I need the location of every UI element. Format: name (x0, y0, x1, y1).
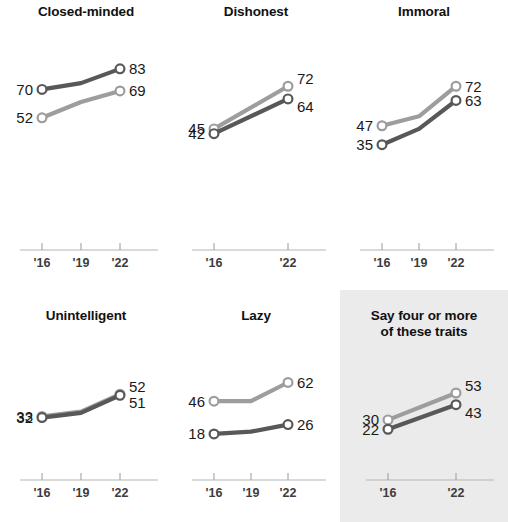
x-tick-label: '22 (280, 256, 297, 270)
x-tick-label: '19 (73, 486, 90, 500)
series-line-dark (42, 69, 120, 90)
x-tick-label: '22 (112, 256, 129, 270)
start-value-label: 42 (188, 125, 205, 142)
data-point-marker (116, 64, 125, 73)
panel-plot: '16'19'2247723563 (340, 0, 508, 288)
series-line-light (382, 86, 456, 126)
small-multiples-chart-grid: Closed-minded'16'19'2270835269Dishonest'… (0, 0, 508, 522)
data-point-marker (38, 413, 47, 422)
series-line-dark (42, 395, 120, 417)
end-value-label: 53 (465, 377, 482, 394)
start-value-label: 22 (362, 421, 379, 438)
data-point-marker (38, 113, 47, 122)
start-value-label: 52 (16, 109, 33, 126)
end-value-label: 64 (297, 98, 314, 115)
chart-panel-1: Closed-minded'16'19'2270835269 (0, 0, 172, 288)
data-point-marker (284, 82, 293, 91)
x-tick-label: '19 (411, 256, 428, 270)
data-point-marker (210, 430, 219, 439)
start-value-label: 18 (188, 425, 205, 442)
x-tick-label: '19 (73, 256, 90, 270)
data-point-marker (384, 425, 393, 434)
data-point-marker (210, 397, 219, 406)
x-tick-label: '16 (206, 256, 223, 270)
panel-plot: '16'2230532243 (340, 290, 508, 522)
end-value-label: 62 (297, 374, 314, 391)
end-value-label: 83 (129, 60, 146, 77)
panel-plot: '16'19'2233523251 (0, 290, 172, 522)
x-tick-label: '16 (34, 486, 51, 500)
end-value-label: 72 (297, 70, 314, 87)
data-point-marker (452, 400, 461, 409)
series-line-light (42, 91, 120, 118)
end-value-label: 26 (297, 416, 314, 433)
panel-plot: '16'19'2246621826 (172, 290, 340, 522)
series-line-light (214, 86, 288, 129)
data-point-marker (284, 378, 293, 387)
data-point-marker (378, 121, 387, 130)
data-point-marker (452, 82, 461, 91)
start-value-label: 46 (188, 393, 205, 410)
x-tick-label: '22 (448, 486, 465, 500)
end-value-label: 43 (465, 404, 482, 421)
end-value-label: 69 (129, 82, 146, 99)
data-point-marker (378, 140, 387, 149)
data-point-marker (452, 389, 461, 398)
data-point-marker (210, 129, 219, 138)
start-value-label: 32 (16, 409, 33, 426)
data-point-marker (38, 85, 47, 94)
x-tick-label: '22 (280, 486, 297, 500)
chart-panel-2: Dishonest'16'2245724264 (172, 0, 340, 288)
start-value-label: 35 (356, 136, 373, 153)
data-point-marker (284, 94, 293, 103)
x-tick-label: '16 (374, 256, 391, 270)
x-tick-label: '16 (206, 486, 223, 500)
panel-plot: '16'2245724264 (172, 0, 340, 288)
end-value-label: 63 (465, 92, 482, 109)
data-point-marker (384, 416, 393, 425)
data-point-marker (116, 391, 125, 400)
series-line-dark (214, 425, 288, 434)
data-point-marker (284, 420, 293, 429)
start-value-label: 70 (16, 81, 33, 98)
series-line-light (214, 383, 288, 402)
series-line-dark (214, 99, 288, 134)
chart-panel-6: Say four or more of these traits'16'2230… (340, 290, 508, 522)
x-tick-label: '16 (380, 486, 397, 500)
x-tick-label: '22 (112, 486, 129, 500)
chart-panel-4: Unintelligent'16'19'2233523251 (0, 290, 172, 522)
x-tick-label: '16 (34, 256, 51, 270)
end-value-label: 51 (129, 394, 146, 411)
x-tick-label: '22 (448, 256, 465, 270)
end-value-label: 52 (129, 378, 146, 395)
x-tick-label: '19 (243, 486, 260, 500)
data-point-marker (116, 87, 125, 96)
chart-panel-5: Lazy'16'19'2246621826 (172, 290, 340, 522)
chart-panel-3: Immoral'16'19'2247723563 (340, 0, 508, 288)
start-value-label: 47 (356, 117, 373, 134)
data-point-marker (452, 96, 461, 105)
panel-plot: '16'19'2270835269 (0, 0, 172, 288)
